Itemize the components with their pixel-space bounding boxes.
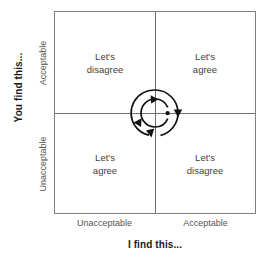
y-axis-tick-acceptable: Acceptable (38, 15, 48, 111)
quadrant-bottom-left-line2: agree (55, 164, 155, 177)
x-axis-tick-unacceptable: Unacceptable (54, 218, 155, 228)
quadrant-bottom-right-line1: Let's (195, 152, 215, 163)
y-axis-tick-unacceptable: Unacceptable (38, 116, 48, 212)
quadrant-top-right: Let's agree (155, 50, 255, 76)
quadrant-top-right-line2: agree (155, 63, 255, 76)
x-axis-tick-acceptable: Acceptable (155, 218, 256, 228)
quadrant-bottom-right-line2: disagree (155, 164, 255, 177)
quadrant-top-left-line2: disagree (55, 63, 155, 76)
circular-arrows-icon (126, 84, 184, 142)
quadrant-bottom-left: Let's agree (55, 151, 155, 177)
plot-area: Let's disagree Let's agree Let's agree L… (54, 11, 256, 214)
x-axis-title: I find this... (54, 239, 256, 250)
quadrant-bottom-left-line1: Let's (95, 152, 115, 163)
y-axis-title: You find this... (13, 18, 24, 158)
quadrant-bottom-right: Let's disagree (155, 151, 255, 177)
quadrant-diagram: You find this... Acceptable Unacceptable… (0, 0, 276, 264)
quadrant-top-right-line1: Let's (195, 51, 215, 62)
quadrant-top-left: Let's disagree (55, 50, 155, 76)
quadrant-top-left-line1: Let's (95, 51, 115, 62)
